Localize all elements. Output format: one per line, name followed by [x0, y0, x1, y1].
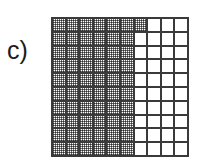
grid-cell [148, 129, 160, 141]
grid-cell [121, 74, 133, 86]
grid-cell [80, 60, 92, 72]
grid-cell [162, 143, 174, 155]
grid-cell [80, 33, 92, 45]
grid-cell [175, 19, 187, 31]
panel-label: c) [7, 34, 47, 66]
grid-cell [135, 19, 147, 31]
grid-container [51, 17, 189, 157]
grid-cell [135, 88, 147, 100]
grid-cell [175, 74, 187, 86]
grid-cell [107, 129, 119, 141]
grid-cell [135, 60, 147, 72]
grid-cell [94, 47, 106, 59]
grid-cell [162, 60, 174, 72]
grid-cell [80, 129, 92, 141]
grid-cell [135, 33, 147, 45]
grid-cell [94, 116, 106, 128]
grid-cell [107, 60, 119, 72]
grid-cell [162, 33, 174, 45]
grid-cell [53, 143, 65, 155]
grid-cell [67, 60, 79, 72]
grid-cell [53, 19, 65, 31]
grid-cell [162, 88, 174, 100]
grid-cell [148, 33, 160, 45]
grid-cell [162, 102, 174, 114]
grid-cell [53, 47, 65, 59]
grid-cell [107, 19, 119, 31]
grid-cell [53, 116, 65, 128]
grid-cell [162, 19, 174, 31]
grid-cell [162, 47, 174, 59]
grid-cell [175, 88, 187, 100]
grid-cell [148, 60, 160, 72]
grid-cell [121, 143, 133, 155]
grid-cell [121, 102, 133, 114]
grid-cell [94, 102, 106, 114]
grid-cell [67, 88, 79, 100]
grid-cell [121, 129, 133, 141]
grid-cell [175, 47, 187, 59]
grid-cell [94, 60, 106, 72]
grid-cell [80, 102, 92, 114]
grid-cell [67, 19, 79, 31]
grid-cell [107, 47, 119, 59]
grid-cell [80, 47, 92, 59]
grid-cell [67, 33, 79, 45]
grid-cell [107, 102, 119, 114]
grid-cell [53, 60, 65, 72]
grid-cell [121, 47, 133, 59]
grid-cell [107, 88, 119, 100]
grid-cell [121, 60, 133, 72]
grid-cell [121, 33, 133, 45]
grid-cell [67, 102, 79, 114]
grid-cell [67, 74, 79, 86]
grid-cell [94, 129, 106, 141]
grid-cell [53, 74, 65, 86]
grid-cell [148, 88, 160, 100]
grid-cell [67, 47, 79, 59]
grid-cell [80, 74, 92, 86]
square-grid [51, 17, 189, 157]
grid-cell [135, 143, 147, 155]
grid-cell [80, 19, 92, 31]
grid-cell [175, 102, 187, 114]
grid-cell [121, 116, 133, 128]
grid-cell [94, 88, 106, 100]
grid-cell [53, 33, 65, 45]
grid-cell [53, 102, 65, 114]
grid-cell [148, 74, 160, 86]
grid-cell [162, 129, 174, 141]
figure-panel: c) [0, 0, 201, 163]
grid-cell [94, 143, 106, 155]
grid-cell [162, 116, 174, 128]
grid-cell [148, 47, 160, 59]
grid-cell [148, 19, 160, 31]
grid-cell [67, 129, 79, 141]
grid-cell [135, 47, 147, 59]
grid-cell [67, 116, 79, 128]
grid-cell [148, 143, 160, 155]
grid-cell [107, 33, 119, 45]
grid-cell [94, 74, 106, 86]
grid-cell [135, 74, 147, 86]
grid-cell [135, 102, 147, 114]
grid-cell [162, 74, 174, 86]
grid-cell [175, 33, 187, 45]
grid-cell [175, 116, 187, 128]
grid-cell [107, 74, 119, 86]
grid-cell [148, 102, 160, 114]
grid-cell [80, 88, 92, 100]
grid-cell [121, 19, 133, 31]
grid-cell [135, 116, 147, 128]
grid-cell [94, 19, 106, 31]
grid-cell [175, 60, 187, 72]
grid-cell [80, 116, 92, 128]
grid-cell [67, 143, 79, 155]
grid-cell [53, 129, 65, 141]
grid-cell [107, 143, 119, 155]
grid-cell [121, 88, 133, 100]
grid-cell [135, 129, 147, 141]
grid-cell [94, 33, 106, 45]
grid-cell [175, 129, 187, 141]
grid-cell [107, 116, 119, 128]
